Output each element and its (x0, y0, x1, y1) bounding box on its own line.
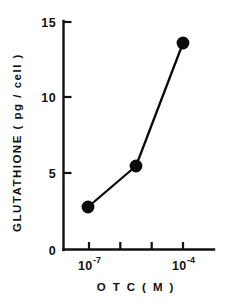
y-axis-title: GLUTATHIONE ( pg / cell ) (11, 53, 23, 232)
chart-figure: GLUTATHIONE ( pg / cell ) 15 10 5 0 10 -… (0, 0, 238, 305)
x-tick-label-1e-4-base: 10 (172, 259, 187, 273)
x-tick-label-1e-7-base: 10 (78, 259, 93, 273)
x-tick-label-1e-7: 10 -7 (78, 255, 101, 273)
series-line-glutathione (88, 43, 183, 207)
data-point-3 (177, 37, 190, 50)
y-tick-label-0: 0 (49, 244, 56, 258)
y-tick-label-10: 10 (41, 91, 56, 105)
y-tick-label-15: 15 (41, 16, 56, 30)
data-point-1 (82, 201, 95, 214)
x-tick-label-1e-7-exponent: -7 (93, 255, 101, 265)
x-tick-label-1e-4-exponent: -4 (187, 255, 195, 265)
line-chart-svg: GLUTATHIONE ( pg / cell ) 15 10 5 0 10 -… (0, 0, 238, 305)
x-axis-title: O T C ( M ) (97, 281, 175, 293)
x-tick-label-1e-4: 10 -4 (172, 255, 195, 273)
data-point-2 (130, 160, 143, 173)
y-tick-label-5: 5 (49, 167, 56, 181)
